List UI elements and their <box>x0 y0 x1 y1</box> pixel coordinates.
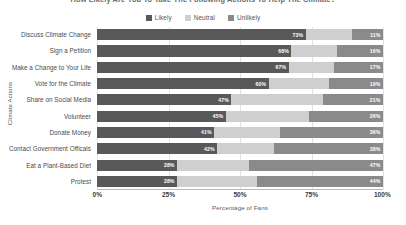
legend-swatch-icon <box>185 15 191 21</box>
bar-segment-unlikely[interactable]: 19% <box>329 78 383 89</box>
legend-item-neutral[interactable]: Neutral <box>185 14 215 21</box>
bar-value-label: 44% <box>370 178 383 184</box>
bar-segment-likely[interactable]: 28% <box>97 176 177 187</box>
category-label: Protest <box>0 176 94 187</box>
x-axis-title: Percentage of Fans <box>97 204 383 211</box>
gridline <box>383 27 384 189</box>
x-axis-tick-label: 75% <box>305 191 318 198</box>
x-axis-tick-label: 0% <box>93 191 103 198</box>
bar-segment-likely[interactable]: 73% <box>97 29 306 40</box>
x-axis-tick-label: 100% <box>374 191 391 198</box>
bar-segment-likely[interactable]: 45% <box>97 111 226 122</box>
bar-value-label: 28% <box>164 162 177 168</box>
bar-segment-unlikely[interactable]: 21% <box>323 94 383 105</box>
bar-segment-neutral[interactable] <box>217 143 274 154</box>
bar-segment-neutral[interactable] <box>214 127 280 138</box>
legend-label: Likely <box>155 14 172 21</box>
bar-value-label: 28% <box>164 178 177 184</box>
bar-rows: 73%11%68%16%67%17%60%19%47%21%45%26%41%3… <box>97 27 383 189</box>
category-label: Volunteer <box>0 111 94 122</box>
bar-segment-unlikely[interactable]: 47% <box>249 160 383 171</box>
bar-row[interactable]: 67%17% <box>97 62 383 73</box>
bar-value-label: 47% <box>370 162 383 168</box>
y-axis-title: Climate Actions <box>6 72 13 136</box>
x-axis-tick-label: 50% <box>233 191 246 198</box>
category-axis-labels: Discuss Climate ChangeSign a PetitionMak… <box>0 27 94 189</box>
category-label: Sign a Petition <box>0 45 94 56</box>
bar-value-label: 68% <box>278 48 291 54</box>
bar-row[interactable]: 47%21% <box>97 94 383 105</box>
chart-title-clipped: How Likely Are You To Take The Following… <box>0 0 406 7</box>
bar-value-label: 67% <box>275 64 288 70</box>
category-label: Vote for the Climate <box>0 78 94 89</box>
bar-segment-neutral[interactable] <box>269 78 329 89</box>
bar-segment-likely[interactable]: 60% <box>97 78 269 89</box>
bar-value-label: 47% <box>218 97 231 103</box>
legend-item-unlikely[interactable]: Unlikely <box>228 14 260 21</box>
bar-segment-neutral[interactable] <box>177 160 249 171</box>
category-label: Contact Government Officals <box>0 143 94 154</box>
stacked-bar-chart: How Likely Are You To Take The Following… <box>0 0 406 225</box>
category-label: Discuss Climate Change <box>0 29 94 40</box>
bar-value-label: 11% <box>370 32 383 38</box>
legend-swatch-icon <box>146 15 152 21</box>
bar-value-label: 26% <box>370 113 383 119</box>
bar-value-label: 73% <box>293 32 306 38</box>
bar-segment-unlikely[interactable]: 11% <box>352 29 383 40</box>
bar-segment-unlikely[interactable]: 26% <box>309 111 383 122</box>
category-label: Share on Social Media <box>0 94 94 105</box>
bar-segment-likely[interactable]: 47% <box>97 94 231 105</box>
bar-segment-unlikely[interactable]: 36% <box>280 127 383 138</box>
bar-row[interactable]: 73%11% <box>97 29 383 40</box>
bar-row[interactable]: 41%36% <box>97 127 383 138</box>
legend-swatch-icon <box>228 15 234 21</box>
bar-segment-unlikely[interactable]: 17% <box>334 62 383 73</box>
bar-value-label: 42% <box>204 146 217 152</box>
bar-segment-unlikely[interactable]: 38% <box>274 143 383 154</box>
bar-segment-likely[interactable]: 41% <box>97 127 214 138</box>
bar-segment-likely[interactable]: 42% <box>97 143 217 154</box>
bar-row[interactable]: 45%26% <box>97 111 383 122</box>
bar-segment-neutral[interactable] <box>306 29 352 40</box>
bar-segment-neutral[interactable] <box>289 62 335 73</box>
category-label: Donate Money <box>0 127 94 138</box>
plot-area: 73%11%68%16%67%17%60%19%47%21%45%26%41%3… <box>97 27 383 189</box>
chart-title: How Likely Are You To Take The Following… <box>71 0 336 4</box>
bar-segment-neutral[interactable] <box>226 111 309 122</box>
bar-value-label: 16% <box>370 48 383 54</box>
legend-item-likely[interactable]: Likely <box>146 14 172 21</box>
bar-segment-unlikely[interactable]: 44% <box>257 176 383 187</box>
bar-segment-neutral[interactable] <box>231 94 323 105</box>
bar-value-label: 36% <box>370 129 383 135</box>
legend-label: Unlikely <box>237 14 260 21</box>
bar-value-label: 41% <box>201 129 214 135</box>
bar-value-label: 45% <box>213 113 226 119</box>
bar-row[interactable]: 68%16% <box>97 45 383 56</box>
bar-value-label: 60% <box>255 81 268 87</box>
category-label: Make a Change to Your Life <box>0 62 94 73</box>
x-axis-tick-label: 25% <box>162 191 175 198</box>
bar-value-label: 17% <box>370 64 383 70</box>
x-axis-line <box>97 189 383 190</box>
category-label: Eat a Plant-Based Diet <box>0 160 94 171</box>
bar-segment-neutral[interactable] <box>177 176 257 187</box>
bar-row[interactable]: 42%38% <box>97 143 383 154</box>
bar-row[interactable]: 28%44% <box>97 176 383 187</box>
bar-value-label: 19% <box>370 81 383 87</box>
bar-row[interactable]: 28%47% <box>97 160 383 171</box>
bar-segment-unlikely[interactable]: 16% <box>337 45 383 56</box>
chart-legend: LikelyNeutralUnlikely <box>0 14 406 21</box>
legend-label: Neutral <box>194 14 215 21</box>
bar-value-label: 21% <box>370 97 383 103</box>
bar-segment-likely[interactable]: 67% <box>97 62 289 73</box>
bar-value-label: 38% <box>370 146 383 152</box>
x-axis-ticks: 0%25%50%75%100% <box>97 191 383 201</box>
bar-row[interactable]: 60%19% <box>97 78 383 89</box>
bar-segment-likely[interactable]: 28% <box>97 160 177 171</box>
bar-segment-neutral[interactable] <box>291 45 337 56</box>
bar-segment-likely[interactable]: 68% <box>97 45 291 56</box>
